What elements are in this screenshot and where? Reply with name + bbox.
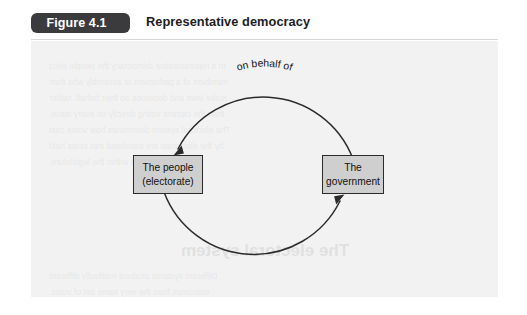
figure-title: Representative democracy bbox=[146, 14, 310, 29]
node-the-government: The government bbox=[322, 155, 384, 194]
node-the-people-line2: (electorate) bbox=[142, 175, 194, 188]
cycle-diagram-svg: Make laws/decisions on behalf of Choose … bbox=[31, 41, 498, 297]
arc-government-to-people bbox=[178, 97, 353, 159]
figure-header: Figure 4.1 Representative democracy bbox=[0, 0, 527, 38]
figure-number-badge: Figure 4.1 bbox=[31, 13, 130, 33]
figure-panel: The electoral system in a representative… bbox=[31, 41, 498, 297]
node-the-people: The people (electorate) bbox=[133, 155, 203, 194]
node-the-people-line1: The people bbox=[143, 161, 194, 174]
header-divider bbox=[31, 39, 498, 40]
node-the-government-line2: government bbox=[326, 175, 380, 188]
arc-people-to-government bbox=[164, 192, 340, 254]
top-arc-label-line2: on behalf of bbox=[235, 58, 294, 73]
node-the-government-line1: The bbox=[344, 161, 362, 174]
